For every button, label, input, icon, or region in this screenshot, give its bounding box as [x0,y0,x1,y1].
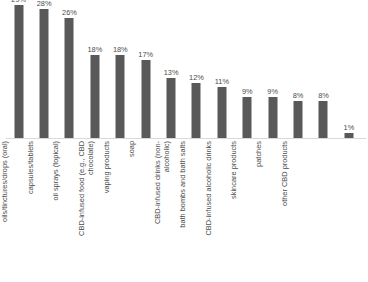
bar-slot: 8% [285,0,310,138]
x-axis-line [6,138,366,139]
bar-rect[interactable] [192,83,201,138]
bar-value-label: 1% [336,123,362,132]
bar-rect[interactable] [90,55,99,138]
bar-slot: 8% [311,0,336,138]
bar-slot: 26% [57,0,82,138]
bar-rect[interactable] [116,55,125,138]
category-label: soap [127,141,136,279]
bar-value-label: 29% [6,0,32,4]
bar-slot: 18% [82,0,107,138]
bar-value-label: 9% [234,87,260,96]
bar-rect[interactable] [14,5,23,138]
category-label: capsules/tablets [26,141,35,279]
bar-value-label: 18% [107,45,133,54]
category-label-slot: patches [311,141,336,282]
bar-value-label: 8% [285,91,311,100]
bar-rect[interactable] [141,60,150,138]
bar-value-label: 12% [183,73,209,82]
bar-slot: 11% [209,0,234,138]
bar-value-label: 28% [31,0,57,8]
bar-value-label: 18% [82,45,108,54]
bar-slot: 28% [31,0,56,138]
bar-slot: 13% [158,0,183,138]
category-label: CBD-infused alcoholic drinks [204,141,213,279]
bar-slot: 12% [184,0,209,138]
bar-slot: 9% [260,0,285,138]
category-label: CBD-infused drinks (non- alcoholic) [153,141,172,279]
bar-value-label: 9% [260,87,286,96]
bar-rect[interactable] [40,9,49,138]
category-label: patches [254,141,263,279]
bar-rect[interactable] [243,97,252,138]
bar-slot: 9% [235,0,260,138]
bar-slot: 29% [6,0,31,138]
bar-value-label: 8% [310,91,336,100]
bar-value-label: 13% [158,68,184,77]
bar-slot: 18% [108,0,133,138]
bar-slot: 1% [336,0,361,138]
category-labels-area: lotions and balms gummies oils/tinctures… [0,141,368,282]
bar-rect[interactable] [217,87,226,138]
bar-rect[interactable] [65,18,74,138]
category-label: bath bombs and bath salts [178,141,187,279]
bar-rect[interactable] [167,78,176,138]
bar-rect[interactable] [319,101,328,138]
category-label-slot: other CBD products [336,141,361,282]
category-label: other CBD products [280,141,289,279]
category-label: CBD-infused food (e.g., CBD chocolate) [77,141,96,279]
bar-rect[interactable] [344,133,353,138]
bar-slot: 17% [133,0,158,138]
bar-value-label: 17% [133,50,159,59]
bar-chart: 29% 28% 26% 18% 18% 17% 13% 12% [0,0,368,282]
category-label: oils/tinctures/drops (oral) [0,141,9,279]
category-label: oil sprays (topical) [51,141,60,279]
category-label: skincare products [229,141,238,279]
bar-rect[interactable] [268,97,277,138]
plot-area: 29% 28% 26% 18% 18% 17% 13% 12% [0,0,368,139]
bar-value-label: 26% [56,8,82,17]
category-label: vaping products [102,141,111,279]
bar-value-label: 11% [209,77,235,86]
bar-rect[interactable] [294,101,303,138]
